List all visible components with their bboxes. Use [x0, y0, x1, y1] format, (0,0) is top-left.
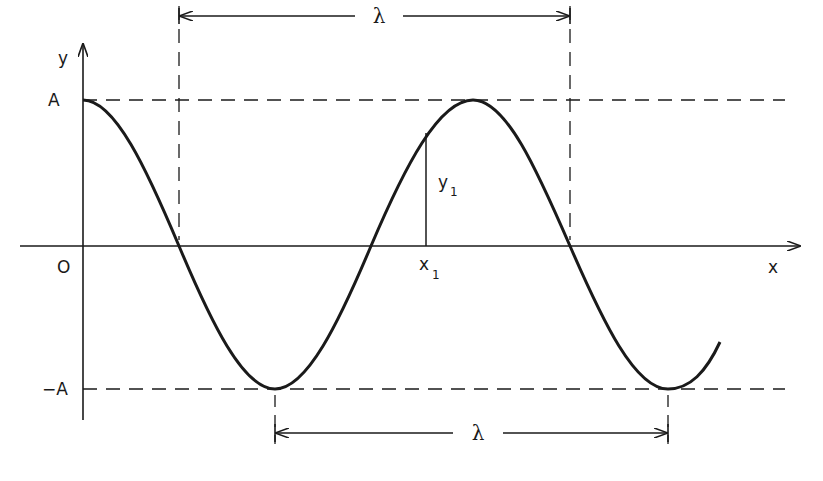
wave-curve	[83, 100, 720, 389]
x-axis-label: x	[768, 257, 778, 277]
top-wavelength-bracket: λ	[179, 4, 570, 28]
svg-text:y: y	[438, 172, 448, 192]
bottom-wavelength-bracket: λ	[275, 421, 668, 445]
svg-text:x: x	[419, 254, 429, 274]
svg-text:1: 1	[432, 268, 440, 282]
diagram-canvas: λ λ y x O A −A x 1 y 1	[0, 0, 823, 481]
top-lambda-label: λ	[373, 4, 386, 28]
x1-label: x 1	[419, 254, 440, 282]
amplitude-neg-label: −A	[42, 379, 68, 399]
wave-diagram: λ λ y x O A −A x 1 y 1	[0, 0, 823, 481]
y-axis-label: y	[58, 48, 68, 68]
bottom-lambda-label: λ	[472, 421, 485, 445]
origin-label: O	[57, 257, 70, 277]
svg-text:1: 1	[450, 185, 458, 199]
amplitude-pos-label: A	[48, 90, 60, 110]
y1-label: y 1	[438, 172, 458, 199]
amplitude-guides	[83, 100, 785, 389]
